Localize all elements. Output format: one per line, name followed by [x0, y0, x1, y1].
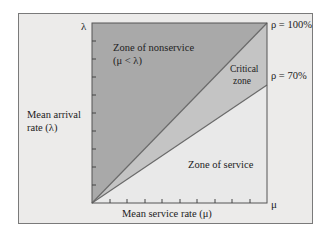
critical-zone-label-line1: Critical — [230, 64, 259, 74]
zone-nonservice-label: Zone of nonservice — [113, 42, 194, 53]
y-axis-title-line1: Mean arrival — [27, 109, 81, 120]
zone-service-label: Zone of service — [188, 159, 254, 170]
utilization-diagram: λ Mean arrival rate (λ) μ Mean service r… — [0, 0, 334, 233]
rho-100-label: ρ = 100% — [271, 19, 312, 30]
rho-70-label: ρ = 70% — [271, 70, 307, 81]
x-axis-title: Mean service rate (μ) — [122, 208, 212, 220]
y-axis-top-label: λ — [81, 20, 87, 32]
y-axis-title-line2: rate (λ) — [27, 122, 58, 134]
x-axis-right-label: μ — [271, 198, 277, 210]
zone-nonservice-condition: (μ < λ) — [113, 55, 142, 67]
critical-zone-label-line2: zone — [233, 76, 251, 86]
